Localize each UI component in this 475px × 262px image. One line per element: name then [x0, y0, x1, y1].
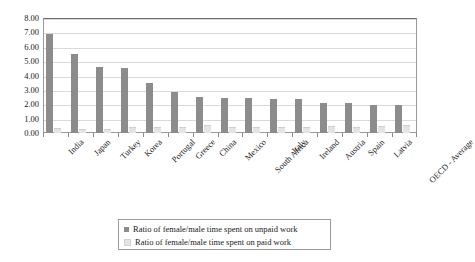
bar-group [367, 18, 392, 133]
bar-group [143, 18, 168, 133]
y-axis-tick-label: 7.00 [24, 28, 39, 37]
y-axis-tick-label: 5.00 [24, 57, 39, 66]
legend-label: Ratio of female/male time spent on unpai… [133, 223, 298, 236]
chart-legend: Ratio of female/male time spent on unpai… [118, 219, 331, 250]
x-axis-label: China [216, 137, 237, 158]
bar-group [218, 18, 243, 133]
bar-unpaid [121, 68, 128, 133]
bar-group [168, 18, 193, 133]
bar-unpaid [221, 98, 228, 133]
legend-item[interactable]: Ratio of female/male time spent on unpai… [124, 223, 330, 236]
bar-unpaid [71, 54, 78, 133]
bar-group [68, 18, 93, 133]
x-axis-label: OECD - Average [427, 137, 475, 185]
x-axis-label: Turkey [118, 137, 142, 161]
bar-group [292, 18, 317, 133]
bar-group [317, 18, 342, 133]
bar-unpaid [270, 99, 277, 134]
x-axis-label: Japan [92, 137, 113, 158]
bar-group [342, 18, 367, 133]
y-axis-tick-label: 6.00 [24, 43, 39, 52]
x-axis-label: Portugal [169, 137, 196, 164]
y-axis-tick-label: 3.00 [24, 86, 39, 95]
bar-paid [328, 126, 335, 133]
bar-group [43, 18, 68, 133]
x-axis-label: India [66, 137, 85, 156]
x-axis-label: Ireland [317, 137, 341, 161]
bar-unpaid [171, 92, 178, 133]
bar-group [267, 18, 292, 133]
bars-layer [43, 18, 417, 133]
bar-group [193, 18, 218, 133]
bar-unpaid [96, 67, 103, 133]
x-axis-label: Austria [343, 137, 368, 162]
bar-group [93, 18, 118, 133]
bar-unpaid [370, 105, 377, 133]
bar-paid [204, 125, 211, 133]
x-axis-label: Korea [142, 137, 164, 159]
y-axis-tick-label: 1.00 [24, 114, 39, 123]
bar-group [118, 18, 143, 133]
y-axis-tick-label: 2.00 [24, 100, 39, 109]
legend-swatch-icon [124, 227, 129, 232]
bar-unpaid [46, 34, 53, 133]
bar-unpaid [395, 105, 402, 133]
bar-unpaid [245, 98, 252, 133]
x-axis-label: Latvia [391, 137, 413, 159]
x-axis-label: Spain [366, 137, 387, 158]
bar-paid [403, 125, 410, 133]
bar-unpaid [345, 103, 352, 133]
bar-unpaid [295, 99, 302, 134]
y-axis-tick-label: 4.00 [24, 71, 39, 80]
bar-group [242, 18, 267, 133]
bar-unpaid [196, 97, 203, 133]
legend-label: Ratio of female/male time spent on paid … [135, 236, 291, 249]
y-axis: 0.001.002.003.004.005.006.007.008.00 [0, 0, 43, 140]
x-axis-label: Greece [193, 137, 217, 161]
legend-item[interactable]: Ratio of female/male time spent on paid … [124, 236, 330, 249]
bar-group [392, 18, 417, 133]
legend-swatch-icon [124, 239, 131, 246]
x-axis-label: Mexico [243, 137, 268, 162]
x-axis: IndiaJapanTurkeyKoreaPortugalGreeceChina… [0, 135, 448, 207]
bar-paid [378, 126, 385, 133]
bar-unpaid [320, 103, 327, 133]
bar-unpaid [146, 83, 153, 133]
y-axis-tick-label: 8.00 [24, 14, 39, 23]
